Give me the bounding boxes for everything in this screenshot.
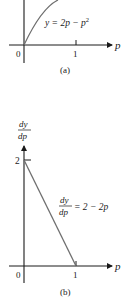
panel-a-tick-1-label: 1	[73, 49, 78, 59]
panel-b-caption: (b)	[60, 287, 71, 297]
panel-b: dy dp 2 dy dp = 2 − 2p p 0 1 (b)	[9, 119, 121, 297]
panel-b-y-axis-label-den: dp	[18, 131, 28, 141]
panel-b-tick-1-label: 1	[73, 270, 78, 280]
panel-b-tick-2-label: 2	[15, 156, 20, 166]
panel-b-origin-label: 0	[16, 270, 21, 280]
figure: p 0 1 y = 2p − p2 (a) dy dp 2 dy dp = 2 …	[0, 0, 132, 308]
panel-b-line-label-rhs: = 2 − 2p	[74, 202, 108, 212]
panel-b-line	[24, 160, 76, 266]
panel-a-curve-label: y = 2p − p2	[44, 16, 89, 28]
panel-a: p 0 1 y = 2p − p2 (a)	[9, 0, 121, 75]
panel-a-caption: (a)	[60, 65, 70, 75]
panel-b-y-axis-label-num: dy	[19, 119, 28, 129]
panel-b-line-label-num: dy	[60, 195, 69, 205]
panel-b-line-label-den: dp	[59, 207, 69, 217]
panel-a-origin-label: 0	[16, 49, 21, 59]
panel-a-x-axis-label: p	[114, 39, 121, 51]
panel-b-x-axis-label: p	[114, 260, 121, 272]
